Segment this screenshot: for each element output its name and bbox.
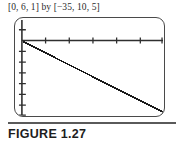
figure-divider-rule	[8, 122, 176, 124]
graph-svg	[15, 18, 164, 116]
figure-block: [0, 6, 1] by [−35, 10, 5]	[0, 0, 176, 144]
figure-caption: FIGURE 1.27	[8, 126, 86, 142]
plot-curve	[23, 42, 163, 113]
viewing-window-spec: [0, 6, 1] by [−35, 10, 5]	[8, 1, 100, 13]
plot-area	[15, 18, 164, 116]
calculator-screen	[14, 17, 165, 117]
